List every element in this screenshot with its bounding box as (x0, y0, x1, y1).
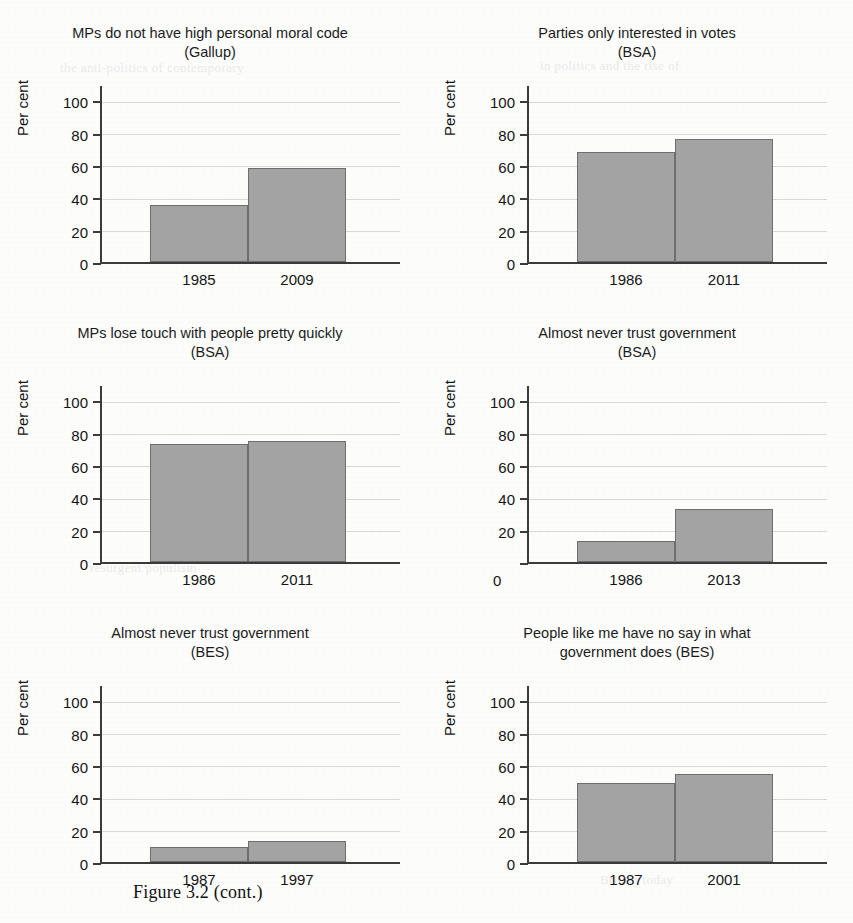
chart-title-line-1: MPs lose touch with people pretty quickl… (77, 325, 342, 341)
y-axis-tick-label: 100 (18, 395, 88, 410)
y-axis-tick-label: 0 (445, 257, 515, 272)
chart-title-line-2: (BSA) (191, 344, 230, 360)
bar (150, 847, 248, 862)
y-axis-tick-label: 20 (18, 225, 88, 240)
y-axis-spine (527, 686, 529, 864)
chart-panel-1: Parties only interested in votes(BSA)Per… (427, 18, 847, 318)
y-axis-tick (520, 134, 528, 136)
gridline (529, 466, 827, 467)
gridline (529, 402, 827, 403)
y-axis-tick (93, 166, 101, 168)
y-axis-tick (520, 701, 528, 703)
y-axis-tick-label: 80 (445, 428, 515, 443)
x-axis-tick-label: 1986 (569, 272, 683, 287)
y-axis-tick-label: 20 (18, 825, 88, 840)
y-axis-tick (93, 198, 101, 200)
y-axis-tick-label: 80 (18, 428, 88, 443)
y-axis-tick (93, 134, 101, 136)
y-axis-tick (520, 231, 528, 233)
figure-caption: Figure 3.2 (cont.) (133, 882, 263, 903)
y-axis-tick (93, 734, 101, 736)
chart-title-line-1: People like me have no say in what (523, 625, 750, 641)
y-axis-tick-label: 20 (445, 225, 515, 240)
plot-area: 02040608010019862011 (100, 386, 400, 564)
x-axis-tick-label: 2011 (240, 572, 354, 587)
x-axis-tick-label: 1986 (569, 572, 683, 587)
y-axis-tick-label: 60 (18, 460, 88, 475)
y-axis-tick (520, 498, 528, 500)
plot-area: 02040608010019871997 (100, 686, 400, 864)
y-axis-tick (93, 466, 101, 468)
y-axis-tick (520, 798, 528, 800)
y-axis-tick-label: 20 (445, 525, 515, 540)
y-axis-tick (93, 563, 101, 565)
x-axis-tick-label: 1986 (142, 572, 256, 587)
y-axis-tick (93, 498, 101, 500)
y-axis-tick (93, 766, 101, 768)
y-axis-tick (93, 701, 101, 703)
gridline (102, 799, 400, 800)
bar (248, 168, 346, 262)
y-axis-spine (100, 86, 102, 264)
bar (675, 509, 773, 562)
gridline (102, 734, 400, 735)
plot-area: 02040608010019872001 (527, 686, 827, 864)
chart-panel-3: Almost never trust government(BSA)Per ce… (427, 318, 847, 618)
y-axis-tick (520, 863, 528, 865)
bar (675, 139, 773, 262)
y-axis-tick-label: 60 (18, 160, 88, 175)
y-axis-tick (520, 101, 528, 103)
gridline (529, 102, 827, 103)
chart-panel-0: MPs do not have high personal moral code… (0, 18, 420, 318)
y-axis-tick-label: 100 (18, 695, 88, 710)
gridline (102, 402, 400, 403)
y-axis-tick-label: 80 (445, 728, 515, 743)
y-axis-tick-label: 80 (18, 128, 88, 143)
figure-panel-grid: MPs do not have high personal moral code… (0, 0, 853, 880)
x-axis-tick-label: 2013 (667, 572, 781, 587)
y-axis-tick (520, 198, 528, 200)
x-axis-tick-label: 2001 (667, 872, 781, 887)
gridline (529, 702, 827, 703)
y-axis-tick-label: 0 (18, 557, 88, 572)
y-axis-tick-label: 0 (18, 857, 88, 872)
bar (577, 783, 675, 862)
chart-title-line-1: MPs do not have high personal moral code (72, 25, 348, 41)
y-axis-tick (520, 401, 528, 403)
y-axis-tick (93, 798, 101, 800)
y-axis-tick (520, 466, 528, 468)
chart-title-line-1: Almost never trust government (111, 625, 308, 641)
y-axis-tick-label: 40 (18, 492, 88, 507)
bar (248, 841, 346, 862)
plot-area: 02040608010019852009 (100, 86, 400, 264)
y-axis-tick (520, 166, 528, 168)
gridline (102, 831, 400, 832)
plot-area: 2040608010019862013 (527, 386, 827, 564)
x-axis-tick-label: 1985 (142, 272, 256, 287)
y-axis-tick-label: 60 (445, 760, 515, 775)
chart-title-line-2: (BSA) (618, 44, 657, 60)
gridline (102, 102, 400, 103)
x-axis-baseline (100, 862, 400, 864)
chart-title-line-1: Almost never trust government (538, 325, 735, 341)
chart-title-line-1: Parties only interested in votes (538, 25, 735, 41)
chart-panel-2: MPs lose touch with people pretty quickl… (0, 318, 420, 618)
gridline (529, 434, 827, 435)
chart-title: People like me have no say in whatgovern… (437, 624, 837, 662)
x-axis-baseline (100, 262, 400, 264)
x-axis-tick-label: 1987 (569, 872, 683, 887)
gridline (102, 766, 400, 767)
y-axis-tick (520, 531, 528, 533)
chart-title-line-2: government does (BES) (560, 644, 715, 660)
chart-title-line-2: (BES) (191, 644, 230, 660)
y-axis-spine (100, 686, 102, 864)
y-axis-tick (520, 263, 528, 265)
chart-panel-5: People like me have no say in whatgovern… (427, 618, 847, 918)
x-axis-baseline (527, 262, 827, 264)
chart-title: Almost never trust government(BES) (10, 624, 410, 662)
y-axis-tick-label: 40 (18, 792, 88, 807)
bar (577, 541, 675, 562)
y-axis-spine (100, 386, 102, 564)
gridline (529, 766, 827, 767)
gridline (102, 702, 400, 703)
